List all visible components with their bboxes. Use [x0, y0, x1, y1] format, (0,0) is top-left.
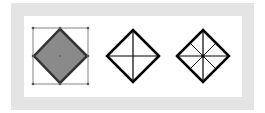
diamond-star[interactable] [177, 30, 229, 82]
diamond-selected[interactable] [32, 27, 90, 86]
center-point [59, 55, 61, 57]
diagram-shapes [0, 0, 265, 113]
diamond-cross[interactable] [107, 30, 159, 82]
